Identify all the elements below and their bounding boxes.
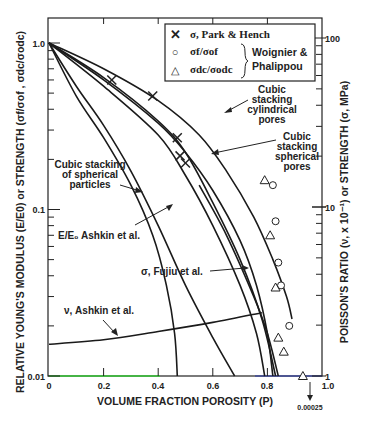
y-left-tick-label: 0.1 <box>32 205 45 215</box>
marker-x <box>176 151 185 160</box>
annotation-text: E/E₀ Ashkin et al. <box>58 230 140 241</box>
y-right-axis-title: POISSON'S RATIO (ν, x 10⁻¹) or STRENGTH … <box>338 81 350 343</box>
curve-group <box>49 43 292 376</box>
series-line-5 <box>49 43 177 376</box>
legend-group-label: Woignier & <box>252 46 308 58</box>
below-axis-arrowhead <box>307 395 313 401</box>
annotation-arrowhead <box>242 265 249 271</box>
legend-label: σ, Park & Hench <box>190 28 270 40</box>
annotation-arrowhead <box>224 107 232 113</box>
legend-circle-icon: ○ <box>172 46 179 58</box>
annotation-text: particles <box>69 179 111 190</box>
legend-group-label: Phalippou <box>252 60 303 72</box>
annotation-text: pores <box>283 161 311 172</box>
legend-label: σdc/σodc <box>190 63 233 75</box>
below-axis-value: 0.00025 <box>297 404 322 411</box>
porosity-chart: 0 0.2 0.4 0.6 0.8 1.0 0.01 0.1 1.0 1 10 … <box>0 0 369 422</box>
x-tick-label: 0.2 <box>98 381 111 391</box>
annotation-sph-pores: Cubic stacking spherical pores <box>211 131 319 172</box>
y-right-tick-label: 1 <box>325 372 330 382</box>
legend-x-icon: ✕ <box>170 27 181 42</box>
x-tick-label: 0.6 <box>207 381 220 391</box>
marker-x <box>148 92 157 101</box>
annotation-nu-ashkin: ν, Ashkin et al. <box>64 305 134 336</box>
y-right-tick-label: 100 <box>325 34 340 44</box>
legend-label: σf/σof <box>190 45 218 57</box>
annotation-text: ν, Ashkin et al. <box>64 305 134 316</box>
marker-triangle <box>274 333 283 341</box>
x-tick-label: 1.0 <box>322 381 335 391</box>
y-left-axis-title: RELATIVE YOUNG'S MODULUS (E/E0) or STREN… <box>14 31 26 393</box>
series-line-7 <box>49 313 262 345</box>
marker-x <box>181 159 190 168</box>
series-line-2 <box>49 43 276 376</box>
marker-circle <box>272 218 279 225</box>
annotation-e-ashkin: E/E₀ Ashkin et al. <box>58 204 173 241</box>
annotation-arrow <box>210 268 245 271</box>
legend-triangle-icon: △ <box>171 64 180 76</box>
y-right-tick-label: 10 <box>325 203 335 213</box>
annotation-cyl-pores: Cubic stacking cylindrical pores <box>224 84 297 125</box>
annotation-text: pores <box>258 114 286 125</box>
marker-circle <box>269 182 276 189</box>
marker-triangle <box>260 176 269 184</box>
annotation-arrow <box>214 140 276 153</box>
series-line-1 <box>49 43 273 376</box>
marker-triangle <box>279 347 288 355</box>
y-left-tick-label: 0.01 <box>27 372 45 382</box>
x-axis-title: VOLUME FRACTION POROSITY (P) <box>97 395 273 407</box>
legend: ✕ ○ △ σ, Park & Hench σf/σof σdc/σodc Wo… <box>165 24 315 81</box>
annotation-arrow <box>135 206 170 225</box>
x-tick-label: 0.8 <box>261 381 274 391</box>
marker-circle <box>286 322 293 329</box>
marker-triangle <box>266 231 275 239</box>
annotation-arrowhead <box>166 204 173 211</box>
annotation-sph-particles: Cubic stacking of spherical particles <box>54 159 143 193</box>
annotation-text: σ, Fujiu et al. <box>141 266 203 277</box>
x-tick-label: 0.4 <box>152 381 165 391</box>
x-tick-label: 0 <box>46 381 51 391</box>
y-left-tick-label: 1.0 <box>32 39 45 49</box>
marker-circle <box>275 259 282 266</box>
